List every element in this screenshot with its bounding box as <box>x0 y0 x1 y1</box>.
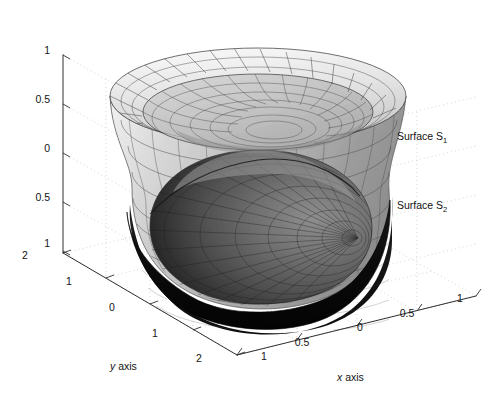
z-tick-label-0.5: 0.5 <box>8 93 50 105</box>
x-axis-title: x axis <box>337 371 364 383</box>
x-tick-label-neg0.5: 0.5 <box>287 336 317 348</box>
y-axis-title: y axis <box>110 360 137 372</box>
y-tick-label-2: 2 <box>22 249 28 261</box>
x-tick-label-1: 1 <box>452 292 468 304</box>
x-tick-label-0: 0 <box>352 321 368 333</box>
z-tick-label-0: 0 <box>8 142 50 154</box>
y-tick-label-neg1: 1 <box>152 327 158 339</box>
x-tick-label-0.5: 0.5 <box>392 307 422 319</box>
z-tick-label-neg0.5: 0.5 <box>8 191 50 203</box>
figure-canvas: 1 0.5 0 0.5 1 2 1 0 1 2 1 0.5 0 0.5 1 y … <box>0 0 489 399</box>
y-tick-label-1: 1 <box>66 275 72 287</box>
z-tick-label-neg1: 1 <box>8 237 50 249</box>
surface-2-label: Surface S2 <box>397 199 447 214</box>
x-tick-label-neg1: 1 <box>256 350 272 362</box>
surface-2-label-sub: 2 <box>443 205 447 214</box>
surface-1-label-text: Surface S <box>397 130 443 142</box>
y-tick-label-neg2: 2 <box>196 352 202 364</box>
z-tick-label-1: 1 <box>8 44 50 56</box>
surface-1-label: Surface S1 <box>397 130 447 145</box>
surface-1-label-sub: 1 <box>443 136 447 145</box>
y-tick-label-0: 0 <box>109 301 115 313</box>
surface-2-label-text: Surface S <box>397 199 443 211</box>
